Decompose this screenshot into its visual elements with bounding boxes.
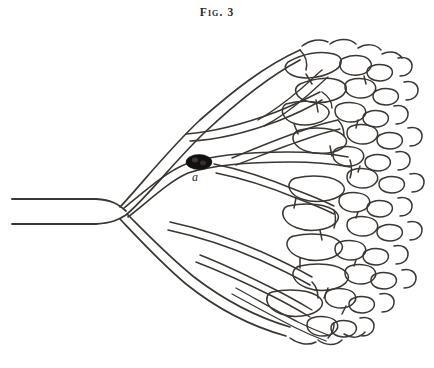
lower-secondary-branch-1 (168, 222, 312, 285)
anatomical-illustration (0, 0, 434, 368)
label-a: a (192, 170, 198, 185)
figure-plate: Fig. 3 (0, 0, 434, 368)
lower-secondary-branch-3 (232, 288, 328, 341)
capillary-plexus (267, 40, 424, 345)
axial-sub-branch (214, 164, 334, 214)
vessel-trunk (12, 199, 126, 224)
lower-primary-branch (120, 214, 290, 336)
lower-secondary-branch-2 (196, 255, 312, 317)
axial-branch (124, 152, 350, 217)
corpuscle-a (186, 155, 212, 170)
axial-upper-twig (232, 120, 340, 165)
